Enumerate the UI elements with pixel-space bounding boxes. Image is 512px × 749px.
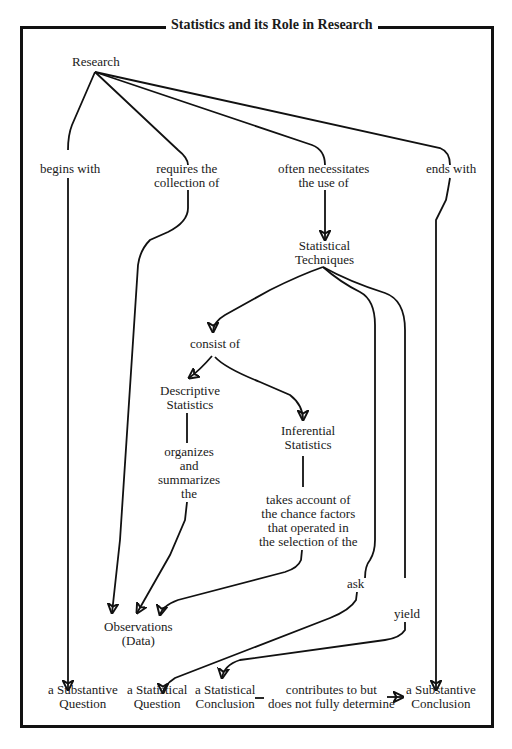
node-statistical-techniques: Statistical Techniques [295, 239, 354, 267]
edge-consist-desc [189, 356, 212, 378]
node-substantive-conclusion: a Substantive Conclusion [406, 683, 476, 711]
node-statistical-conclusion: a Statistical Conclusion [195, 683, 255, 711]
node-inferential-statistics: Inferential Statistics [281, 424, 335, 452]
node-statistical-question: a Statistical Question [127, 683, 187, 711]
inferential-line-1: Inferential [281, 424, 335, 438]
edge-label-often: often necessitates the use of [278, 162, 369, 190]
edge-ask-statq [163, 592, 357, 693]
yield-text: yield [394, 606, 420, 621]
edge-organizes-obs [137, 502, 187, 613]
node-descriptive-statistics: Descriptive Statistics [160, 384, 220, 412]
edge-label-begins-with: begins with [40, 162, 100, 176]
edge-label-organizes: organizes and summarizes the [158, 445, 220, 501]
edge-research-often [95, 72, 325, 165]
diagram-edges [0, 0, 512, 749]
organizes-line-3: summarizes [158, 473, 220, 487]
edge-takes-obs [160, 550, 302, 615]
begins-with-text: begins with [40, 161, 100, 176]
ends-with-text: ends with [426, 161, 476, 176]
stat-conclusion-line-1: a Statistical [195, 683, 255, 697]
contributes-line-2: does not fully determine [268, 697, 395, 711]
subst-question-line-2: Question [48, 697, 118, 711]
stat-question-line-1: a Statistical [127, 683, 187, 697]
requires-line-1: requires the [154, 162, 219, 176]
ask-text: ask [347, 576, 364, 591]
often-line-2: the use of [278, 176, 369, 190]
consist-of-text: consist of [190, 336, 240, 351]
edge-label-contributes: contributes to but does not fully determ… [268, 683, 395, 711]
stat-conclusion-line-2: Conclusion [195, 697, 255, 711]
node-substantive-question: a Substantive Question [48, 683, 118, 711]
edge-label-takes-account: takes account of the chance factors that… [259, 493, 358, 549]
organizes-line-2: and [158, 459, 220, 473]
requires-line-2: collection of [154, 176, 219, 190]
node-research: Research [72, 55, 120, 69]
node-observations: Observations (Data) [104, 620, 173, 648]
node-research-text: Research [72, 54, 120, 69]
organizes-line-1: organizes [158, 445, 220, 459]
edge-label-ask: ask [347, 577, 364, 591]
edge-label-yield: yield [394, 607, 420, 621]
stat-question-line-2: Question [127, 697, 187, 711]
edge-research-begins [68, 72, 95, 150]
subst-conclusion-line-2: Conclusion [406, 697, 476, 711]
inferential-line-2: Statistics [281, 438, 335, 452]
edge-label-consist-of: consist of [190, 337, 240, 351]
edge-label-requires: requires the collection of [154, 162, 219, 190]
takes-line-1: takes account of [259, 493, 358, 507]
observations-line-1: Observations [104, 620, 173, 634]
takes-line-3: that operated in [259, 521, 358, 535]
descriptive-line-1: Descriptive [160, 384, 220, 398]
edge-stattech-consist [213, 267, 323, 332]
edge-label-ends-with: ends with [426, 162, 476, 176]
descriptive-line-2: Statistics [160, 398, 220, 412]
stat-tech-line-2: Techniques [295, 253, 354, 267]
edge-research-requires [95, 72, 188, 165]
often-line-1: often necessitates [278, 162, 369, 176]
subst-question-line-1: a Substantive [48, 683, 118, 697]
edge-consist-infer [215, 357, 303, 420]
contributes-line-1: contributes to but [268, 683, 395, 697]
edge-research-ends [95, 72, 450, 165]
takes-line-2: the chance factors [259, 507, 358, 521]
takes-line-4: the selection of the [259, 535, 358, 549]
subst-conclusion-line-1: a Substantive [406, 683, 476, 697]
observations-line-2: (Data) [104, 634, 173, 648]
edge-ends-substconc [436, 178, 450, 690]
stat-tech-line-1: Statistical [295, 239, 354, 253]
organizes-line-4: the [158, 487, 220, 501]
